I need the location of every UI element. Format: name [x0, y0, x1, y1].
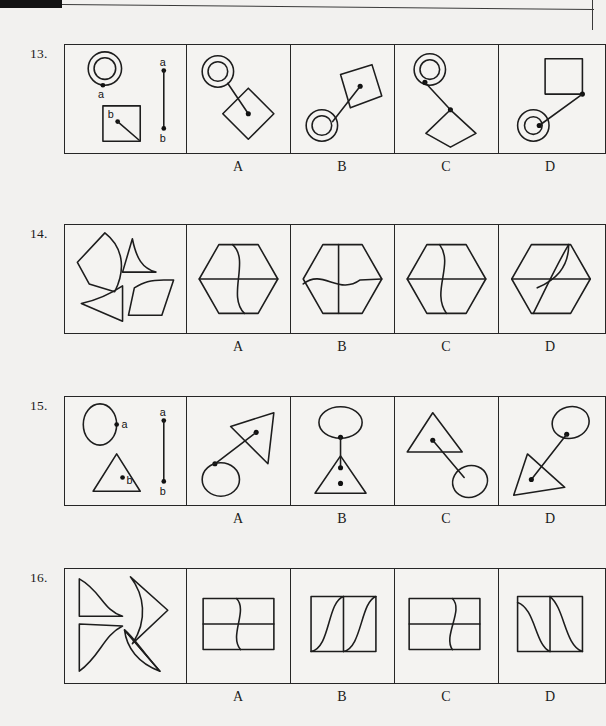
q15-option-a-panel[interactable]: [187, 397, 291, 505]
q16-label-c: C: [394, 689, 498, 705]
q15-option-b-panel[interactable]: [291, 397, 395, 505]
q16-option-b-panel[interactable]: [291, 569, 395, 683]
q13-option-b-panel[interactable]: [291, 45, 395, 153]
q14-label-b: B: [290, 339, 394, 355]
q16-option-c-panel[interactable]: [395, 569, 499, 683]
question-15-panel-strip: a b a b: [64, 396, 606, 506]
question-14: 14.: [30, 224, 576, 334]
previous-question-bottom-border: [62, 4, 594, 10]
q15-option-labels: A B C D: [64, 511, 606, 527]
q13-prompt-panel[interactable]: a b a b: [65, 45, 187, 153]
q13-option-d-panel[interactable]: [499, 45, 603, 153]
q15-option-c-panel[interactable]: [395, 397, 499, 505]
question-number-15: 15.: [30, 398, 47, 414]
q14-option-labels: A B C D: [64, 339, 606, 355]
svg-text:a: a: [160, 406, 166, 418]
q14-label-d: D: [498, 339, 602, 355]
question-14-panel-strip: [64, 224, 606, 334]
q13-label-c: C: [394, 159, 498, 175]
q16-label-b: B: [290, 689, 394, 705]
question-number-14: 14.: [30, 226, 47, 242]
q16-label-a: A: [186, 689, 290, 705]
q15-label-c: C: [394, 511, 498, 527]
q14-label-c: C: [394, 339, 498, 355]
q14-option-b-panel[interactable]: [291, 225, 395, 333]
q14-option-d-panel[interactable]: [499, 225, 603, 333]
svg-text:b: b: [126, 474, 132, 486]
q14-option-c-panel[interactable]: [395, 225, 499, 333]
q15-label-d: D: [498, 511, 602, 527]
q16-option-d-panel[interactable]: [499, 569, 603, 683]
q15-prompt-panel[interactable]: a b a b: [65, 397, 187, 505]
q16-label-d: D: [498, 689, 602, 705]
question-number-16: 16.: [30, 570, 47, 586]
q13-option-a-panel[interactable]: [187, 45, 291, 153]
q16-prompt-panel[interactable]: [65, 569, 187, 683]
svg-text:a: a: [122, 418, 128, 430]
svg-text:b: b: [160, 132, 166, 144]
page-edge-artifact: [0, 0, 62, 8]
question-16-panel-strip: [64, 568, 606, 684]
q13-label-b: B: [290, 159, 394, 175]
q15-option-d-panel[interactable]: [499, 397, 603, 505]
q14-label-a: A: [186, 339, 290, 355]
q13-option-c-panel[interactable]: [395, 45, 499, 153]
question-13: 13. a b a b: [30, 44, 576, 154]
q16-option-a-panel[interactable]: [187, 569, 291, 683]
svg-text:b: b: [108, 108, 114, 120]
question-13-panel-strip: a b a b: [64, 44, 606, 154]
q14-prompt-panel[interactable]: [65, 225, 187, 333]
q15-label-a: A: [186, 511, 290, 527]
q13-option-labels: A B C D: [64, 159, 606, 175]
question-number-13: 13.: [30, 46, 47, 62]
svg-text:b: b: [160, 485, 166, 497]
svg-text:a: a: [160, 56, 166, 68]
q13-label-d: D: [498, 159, 602, 175]
question-16: 16.: [30, 568, 576, 684]
question-15: 15. a b a b: [30, 396, 576, 506]
q13-label-a: A: [186, 159, 290, 175]
previous-question-right-border: [592, 0, 593, 30]
q15-label-b: B: [290, 511, 394, 527]
q14-option-a-panel[interactable]: [187, 225, 291, 333]
svg-text:a: a: [98, 88, 104, 100]
q16-option-labels: A B C D: [64, 689, 606, 705]
